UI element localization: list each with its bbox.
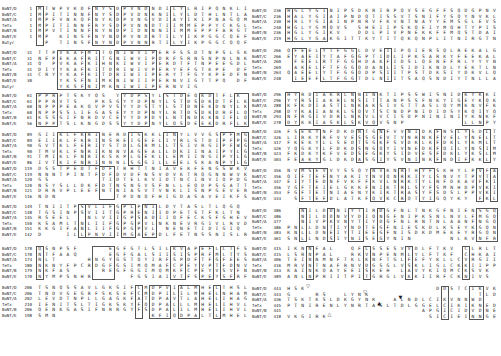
residue-start-number: 219 (272, 36, 281, 42)
sequence-name: BoNT/E (2, 274, 22, 280)
alignment-block: BoNT/D1MTWPVKDFNYSDPVNDNDILYLRIPQNKLIBoN… (2, 6, 248, 47)
sequence-name: BoNT/E (252, 314, 272, 320)
open-triangle-down-icon: ▽ (363, 290, 367, 295)
alignment-row: BoNT/E303FEAKYGLDKDASGIYSVNINKFNDIFKKLY (252, 157, 499, 163)
sequence-name: BoNT/E (2, 160, 22, 166)
sequence-name: BoNT/E (2, 194, 22, 200)
residue-sequence: NPPTSLKNGDSSYYDPNYLQSDEEKDRFLK (36, 121, 249, 127)
residue-start-number: 198 (23, 313, 32, 319)
alignment-block: BoNT/D443HSK DDSTCIKVKBoNT/C443G RS LYNK… (252, 286, 499, 322)
alignment-block: BoNT/D356NVMSEVVYSSQYNVKNRTHYFSKHYLPVFAB… (252, 168, 499, 204)
alignment-row: BoNT/E86IVTKIFNRINNNLSGGILLEELSKANPYLG (2, 160, 248, 166)
residue-sequence: YKSFNIMKNIWIIPERNVIG (36, 84, 249, 90)
residue-sequence: FEAKYGLDKDASGIYSVNINKFNDIFKKLY (285, 157, 498, 163)
residue-sequence: NYMPSNHR FGSIAIVTFSPEYSFRF (36, 274, 249, 280)
sequence-name: BoNT/E (252, 236, 272, 242)
sequence-name: BoNT/E (252, 274, 272, 280)
residue-start-number: 278 (272, 120, 281, 126)
alignment-row: BoNT/E56NPPTSLKNGDSSYYDPNYLQSDEEKDRFLK (2, 121, 248, 127)
alignment-row: BoNT/E278DYKKIASKLSKVQVSNP LLNPY (252, 120, 499, 126)
residue-sequence: HGLYGAKGITTKYTITQKQNPLITNIRGTN (285, 36, 498, 42)
sequence-name: BoNT/E (2, 121, 22, 127)
open-triangle-up-icon: △ (328, 312, 332, 317)
alignment-block: BoNT/D415IKNNFAL QFLSSESVVDLFTKV CLRLTBo… (252, 246, 499, 282)
sequence-name: Butyr (2, 40, 22, 46)
alignment-row: BoNT/E198SMN KFIQDPALTLMHEL (2, 313, 248, 319)
residue-start-number: 86 (23, 160, 32, 166)
alignment-row: Butyr P TINSFNYNDPVNNRTILYIKPGGCQQF (2, 40, 248, 46)
residue-start-number: 333 (272, 196, 281, 202)
alignment-row: BoNT/E219HGLYGAKGITTKYTITQKQNPLITNIRGTN (252, 36, 499, 42)
sequence-name: BoNT/E (252, 120, 272, 126)
sequence-name: BoNT/E (2, 313, 22, 319)
alignment-block: BoNT/D31TTPVKAFMITQNIWVIPERFSSDTNPSLSKBo… (2, 50, 248, 91)
alignment-row: BoNT/E333 SFTEFDLATKFQVKCRQTYIGQYKY FKL (252, 196, 499, 202)
alignment-row: BoNT/E418VKGIRK SICIEINNGE (252, 314, 499, 320)
filled-triangle-down-icon: ▼ (399, 295, 403, 300)
alignment-row: BoNT/E116NDN TPDNQFHIGDASAVEIKFS (2, 194, 248, 200)
alignment-block: BoNT/D326FSEKYNFDKDNTGNFVVNIDKFNSLYSDLTB… (252, 129, 499, 165)
residue-start-number: 361 (272, 236, 281, 242)
alignment-row: BoNT/E142D ILLPNVIIMGAEPDLFETNSSNISLR (2, 232, 248, 238)
sequence-name: BoNT/E (252, 36, 272, 42)
sequence-name: BoNT/E (252, 157, 272, 163)
alignment-block: BoNT/D119DSSTPEDTFDFTRHTTNIAVEKFENGSWKVB… (2, 166, 248, 202)
residue-start-number: 389 (272, 274, 281, 280)
residue-sequence: SMN KFIQDPALTLMHEL (36, 313, 249, 319)
alignment-block: BoNT/D236HGLYGINIPSDKRIRPQVSEGFFSQDGPNVB… (252, 8, 499, 44)
alignment-block: BoNT/D206TSNQSSAVLGKSIFCMDPVIALMHELTHSLB… (2, 285, 248, 321)
alignment-block: BoNT/D296HYRDIAKRLNNINKTIPSSWISNIDKYKKIB… (252, 92, 499, 128)
alignment-row: BoNT/E361SNLLNDSIYNISEGYNIN NLKVNFR (252, 236, 499, 242)
alignment-block: BoNT/D178QSNPSF EGFGTLSILKVAPEFLLTFSBoNT… (2, 246, 248, 282)
residue-sequence: VKGIRK SICIEINNGE (285, 314, 498, 320)
residue-start-number: 303 (272, 157, 281, 163)
alignment-row: BoNT/E170NYMPSNHR FGSIAIVTFSPEYSFRF (2, 274, 248, 280)
alignment-block: BoNT/D89GIIKLFKRINERDIGKKLINYLVVGSPFMGBo… (2, 132, 248, 168)
residue-start-number: 248 (272, 76, 281, 82)
residue-sequence: SFTEFDLATKFQVKCRQTYIGQYKY FKL (285, 196, 498, 202)
residue-sequence: IVTKIFNRINNNLSGGILLEELSKANPYLG (36, 160, 249, 166)
alignment-block: BoNT/D61PPRPTSKYQS YYDPSYLSTDEQKDTFLKBoN… (2, 93, 248, 129)
alignment-block: BoNT/D149TNIITPSVLIFGPLPNILDYTASLTLQGQBo… (2, 204, 248, 240)
sequence-name: BoNT/E (252, 76, 272, 82)
residue-start-number: 170 (23, 274, 32, 280)
residue-sequence: IEEFLTFGGTDLNIITSAQSNDIYTNLLA (285, 76, 498, 82)
sequence-name: Butyr (2, 84, 22, 90)
sequence-name: BoNT/E (2, 232, 22, 238)
residue-sequence: NDN TPDNQFHIGDASAVEIKFS (36, 194, 249, 200)
residue-sequence: D ILLPNVIIMGAEPDLFETNSSNISLR (36, 232, 249, 238)
residue-start-number: 116 (23, 194, 32, 200)
residue-sequence: SNLLNDSIYNISEGYNIN NLKVNFR (285, 236, 498, 242)
residue-start-number: 56 (23, 121, 32, 127)
sequence-alignment-figure: BoNT/D1MTWPVKDFNYSDPVNDNDILYLRIPQNKLIBoN… (0, 0, 501, 356)
alignment-row: BoNT/E389ANLNPRIITPITGRGLVKKIIRFCKNIVS (252, 274, 499, 280)
alignment-block: BoNT/D386 NILDDNIYTIRDGFNLTNKGFNIENSGQBo… (252, 208, 499, 244)
alignment-block: BoNT/D266QFEELYTFGGLDVEIIPQIERSQLREKALGB… (252, 48, 499, 84)
sequence-name: BoNT/E (252, 196, 272, 202)
residue-sequence: ANLNPRIITPITGRGLVKKIIRFCKNIVS (285, 274, 491, 280)
residue-sequence: P TINSFNYNDPVNNRTILYIKPGGCQQF (36, 40, 249, 46)
alignment-row: Butyr YKSFNIMKNIWIIPERNVIG (2, 84, 248, 90)
residue-sequence: DYKKIASKLSKVQVSNP LLNPY (285, 120, 498, 126)
filled-triangle-up-icon: ▲ (377, 301, 381, 306)
alignment-row: BoNT/E248 IEEFLTFGGTDLNIITSAQSNDIYTNLLA (252, 76, 499, 82)
residue-start-number: 418 (272, 314, 281, 320)
open-triangle-down-icon: ▽ (306, 284, 310, 289)
residue-start-number: 142 (23, 232, 32, 238)
